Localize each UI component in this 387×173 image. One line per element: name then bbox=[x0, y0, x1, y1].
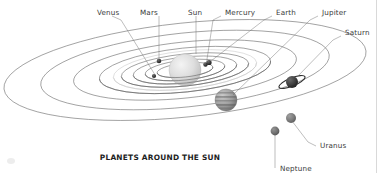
sun-body bbox=[169, 54, 201, 86]
leader-venus bbox=[112, 16, 155, 74]
label-neptune: Neptune bbox=[280, 164, 312, 173]
label-earth: Earth bbox=[276, 8, 296, 17]
figure-title: PLANETS AROUND THE SUN bbox=[100, 153, 220, 162]
label-mars: Mars bbox=[140, 8, 158, 17]
leader-uranus bbox=[292, 121, 316, 146]
planet-earth bbox=[206, 60, 211, 65]
leader-earth bbox=[211, 16, 272, 61]
solar-system-figure: Venus Mars Sun Mercury Earth Jupiter Sat… bbox=[0, 0, 387, 173]
label-mercury: Mercury bbox=[225, 8, 256, 17]
planet-uranus bbox=[286, 113, 296, 123]
label-sun: Sun bbox=[188, 8, 202, 17]
planet-mars bbox=[157, 59, 162, 64]
leader-jupiter bbox=[233, 16, 318, 95]
leader-mercury bbox=[207, 16, 222, 63]
label-uranus: Uranus bbox=[320, 141, 346, 150]
planet-venus bbox=[152, 74, 156, 78]
planet-saturn bbox=[278, 73, 307, 91]
label-venus: Venus bbox=[97, 8, 119, 17]
label-jupiter: Jupiter bbox=[321, 8, 346, 17]
label-saturn: Saturn bbox=[345, 28, 370, 37]
solar-system-svg: Venus Mars Sun Mercury Earth Jupiter Sat… bbox=[0, 0, 387, 173]
planet-jupiter bbox=[215, 89, 237, 111]
scan-smudge bbox=[7, 158, 15, 164]
